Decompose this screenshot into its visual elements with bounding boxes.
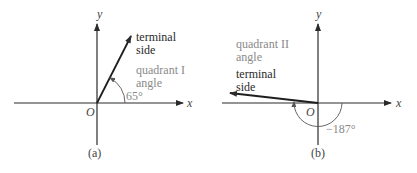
quadrant-label-b-line2: angle (236, 51, 262, 63)
x-axis-label-b: x (396, 97, 401, 109)
origin-label-a: O (86, 106, 95, 118)
caption-b: (b) (311, 147, 325, 159)
x-axis-label-a: x (187, 97, 192, 109)
caption-a: (a) (88, 147, 101, 159)
quadrant-label-a-line1: quadrant I (136, 64, 185, 76)
terminal-label-b-line1: terminal (236, 68, 276, 80)
terminal-side-b (230, 93, 318, 103)
quadrant-label-a-line2: angle (136, 77, 162, 89)
terminal-label-a-line1: terminal (136, 31, 176, 43)
quadrant-label-b-line1: quadrant II (236, 38, 289, 50)
y-axis-label-a: y (97, 8, 102, 20)
terminal-label-a-line2: side (136, 44, 155, 56)
y-axis-label-b: y (316, 8, 321, 20)
angle-label-a: 65° (126, 90, 143, 102)
origin-label-b: O (306, 106, 315, 118)
terminal-label-b-line2: side (236, 81, 255, 93)
angle-label-b: −187° (326, 123, 356, 135)
diagram-canvas (0, 0, 417, 173)
angle-arc-a (110, 78, 125, 103)
